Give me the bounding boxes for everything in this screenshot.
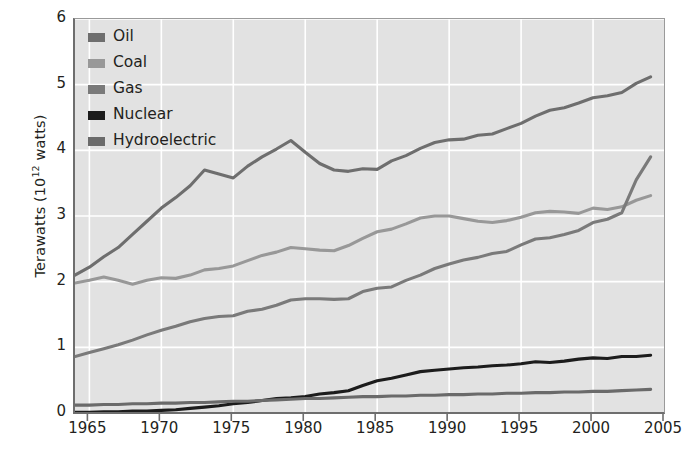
legend-label: Coal bbox=[113, 55, 147, 71]
x-axis-tick-labels: 196519701975198019851990199520002005 bbox=[0, 421, 680, 445]
legend-item-gas[interactable]: Gas bbox=[88, 76, 258, 102]
legend-item-oil[interactable]: Oil bbox=[88, 24, 258, 50]
y-tick-label-5: 5 bbox=[40, 76, 66, 91]
y-tick-label-1: 1 bbox=[40, 338, 66, 353]
y-tick-label-4: 4 bbox=[40, 141, 66, 156]
x-tick-label-1980: 1980 bbox=[273, 421, 333, 436]
x-tick-label-2005: 2005 bbox=[633, 421, 686, 436]
y-tick-label-2: 2 bbox=[40, 273, 66, 288]
x-axis-ticks bbox=[0, 414, 680, 422]
chart-legend: OilCoalGasNuclearHydroelectric bbox=[88, 24, 258, 154]
legend-label: Hydroelectric bbox=[113, 133, 216, 149]
x-tick-label-2000: 2000 bbox=[561, 421, 621, 436]
legend-item-nuclear[interactable]: Nuclear bbox=[88, 102, 258, 128]
legend-label: Nuclear bbox=[113, 107, 173, 123]
x-tick-label-1995: 1995 bbox=[489, 421, 549, 436]
y-tick-label-3: 3 bbox=[40, 207, 66, 222]
legend-swatch-icon-gas bbox=[88, 85, 105, 94]
legend-swatch-icon-oil bbox=[88, 33, 105, 42]
legend-swatch-icon-hydroelectric bbox=[88, 137, 105, 146]
x-tick-label-1990: 1990 bbox=[417, 421, 477, 436]
y-tick-label-6: 6 bbox=[40, 10, 66, 25]
legend-label: Oil bbox=[113, 29, 134, 45]
x-tick-label-1985: 1985 bbox=[345, 421, 405, 436]
legend-swatch-icon-coal bbox=[88, 59, 105, 68]
legend-item-coal[interactable]: Coal bbox=[88, 50, 258, 76]
legend-item-hydroelectric[interactable]: Hydroelectric bbox=[88, 128, 258, 154]
x-tick-label-1970: 1970 bbox=[129, 421, 189, 436]
x-tick-label-1965: 1965 bbox=[57, 421, 117, 436]
x-tick-label-1975: 1975 bbox=[201, 421, 261, 436]
legend-label: Gas bbox=[113, 81, 143, 97]
legend-swatch-icon-nuclear bbox=[88, 111, 105, 120]
y-axis-tick-labels: 6543210 bbox=[36, 0, 66, 465]
